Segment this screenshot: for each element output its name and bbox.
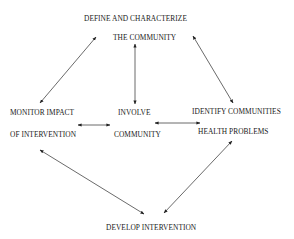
node-define-line1: DEFINE AND CHARACTERIZE xyxy=(84,15,187,22)
node-define-line2: THE COMMUNITY xyxy=(113,34,176,41)
node-involve-line1: INVOLVE xyxy=(118,109,151,116)
node-develop-line1: DEVELOP INTERVENTION xyxy=(106,224,196,231)
node-monitor-line1: MONITOR IMPACT xyxy=(10,109,74,116)
arrow-monitor-develop xyxy=(40,150,144,214)
node-involve-line2: COMMUNITY xyxy=(114,131,161,138)
arrow-define-identify xyxy=(193,36,233,103)
community-health-cycle-diagram: DEFINE AND CHARACTERIZE THE COMMUNITY MO… xyxy=(0,0,294,239)
arrow-identify-develop xyxy=(164,141,232,213)
node-identify-line2: HEALTH PROBLEMS xyxy=(198,128,269,135)
node-identify-line1: IDENTIFY COMMUNITIES xyxy=(192,108,281,115)
node-monitor-line2: OF INTERVENTION xyxy=(10,131,76,138)
arrow-define-monitor xyxy=(40,37,96,103)
